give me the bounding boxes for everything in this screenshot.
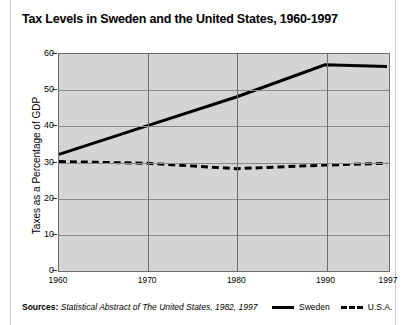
x-tick-label: 1980: [227, 276, 246, 285]
x-tick-label: 1970: [138, 276, 157, 285]
legend-item-sweden: Sweden: [272, 302, 330, 312]
y-tick-label: 50: [12, 85, 54, 94]
y-tick-label: 40: [12, 121, 54, 130]
sources-text: Statistical Abstract of The United State…: [61, 302, 258, 312]
gridline-horizontal: [59, 235, 389, 236]
y-tick-label: 10: [12, 230, 54, 239]
y-axis: Taxes as a Percentage of GDP 01020304050…: [8, 0, 54, 325]
series-line-sweden: [59, 65, 387, 155]
gridline-horizontal: [59, 90, 389, 91]
y-tick-mark: [52, 125, 57, 126]
y-tick-mark: [52, 53, 57, 54]
x-tick-label: 1990: [316, 276, 335, 285]
x-tick-label: 1960: [49, 276, 68, 285]
y-tick-label: 0: [12, 266, 54, 275]
legend-item-usa: U.S.A.: [341, 302, 393, 312]
gridline-vertical: [327, 54, 328, 271]
legend-swatch-dashed-icon: [341, 306, 363, 309]
legend-swatch-solid-icon: [272, 306, 294, 309]
chart-title: Tax Levels in Sweden and the United Stat…: [22, 12, 352, 27]
legend-label-usa: U.S.A.: [368, 302, 393, 312]
gridline-horizontal: [59, 126, 389, 127]
x-tick-label: 1997: [379, 276, 398, 285]
y-tick-mark: [52, 198, 57, 199]
gridline-horizontal: [59, 163, 389, 164]
y-tick-mark: [52, 234, 57, 235]
chart-figure: Tax Levels in Sweden and the United Stat…: [0, 0, 412, 325]
y-tick-label: 30: [12, 158, 54, 167]
sources-note: Sources: Statistical Abstract of The Uni…: [22, 302, 257, 312]
y-tick-mark: [52, 270, 57, 271]
sources-label: Sources:: [22, 302, 58, 312]
gridline-horizontal: [59, 199, 389, 200]
y-tick-label: 60: [12, 49, 54, 58]
gridline-vertical: [148, 54, 149, 271]
plot-area: [58, 53, 390, 272]
chart-legend: Sweden U.S.A.: [272, 300, 392, 314]
gridline-vertical: [237, 54, 238, 271]
y-tick-mark: [52, 162, 57, 163]
y-tick-mark: [52, 89, 57, 90]
legend-label-sweden: Sweden: [299, 302, 330, 312]
y-tick-label: 20: [12, 194, 54, 203]
